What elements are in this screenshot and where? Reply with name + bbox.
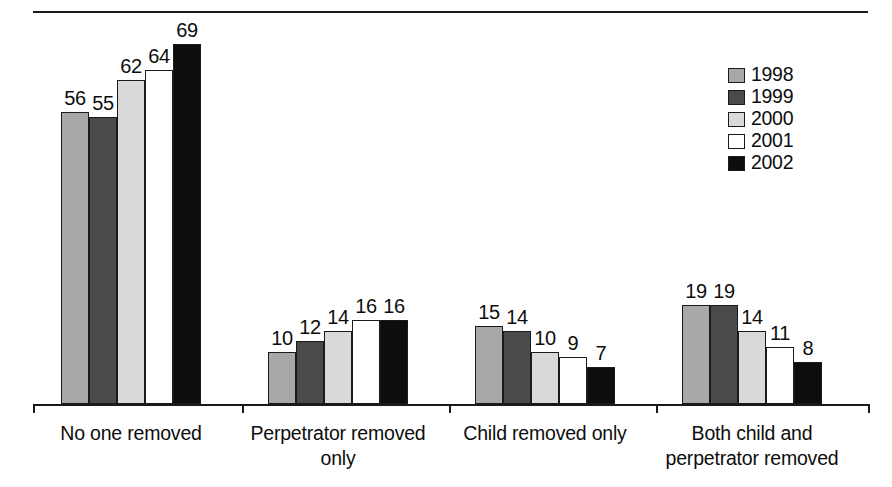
legend-item-2002[interactable]: 2002	[728, 152, 793, 174]
bar-value-label: 19	[702, 280, 746, 303]
bar	[145, 70, 173, 404]
legend-swatch	[728, 156, 745, 171]
axis-tick	[656, 404, 658, 413]
bar	[352, 320, 380, 404]
axis-tick	[242, 404, 244, 413]
legend-label: 1999	[751, 87, 793, 107]
legend-label: 1998	[751, 65, 793, 85]
legend-item-1999[interactable]: 1999	[728, 86, 793, 108]
bar-value-label: 64	[137, 45, 181, 68]
bar	[794, 362, 822, 404]
bar-value-label: 7	[579, 342, 623, 365]
bar	[682, 305, 710, 404]
category-label: Perpetrator removed only	[223, 421, 453, 471]
legend-swatch	[728, 112, 745, 127]
bar	[117, 80, 145, 404]
bar-value-label: 8	[786, 337, 830, 360]
bar	[531, 352, 559, 404]
axis-tick	[868, 404, 870, 413]
legend-swatch	[728, 90, 745, 105]
bar	[89, 117, 117, 404]
axis-tick	[33, 404, 35, 413]
category-label: No one removed	[16, 421, 246, 446]
bar	[296, 341, 324, 404]
bar-value-label: 14	[495, 306, 539, 329]
category-label: Child removed only	[430, 421, 660, 446]
axis-tick	[449, 404, 451, 413]
bar	[380, 320, 408, 404]
legend-item-2001[interactable]: 2001	[728, 130, 793, 152]
legend-swatch	[728, 134, 745, 149]
bar-chart-figure: 5655626469101214161615141097191914118 No…	[0, 0, 892, 487]
bar	[324, 331, 352, 404]
legend-label: 2002	[751, 153, 793, 173]
bar	[268, 352, 296, 404]
legend-label: 2001	[751, 131, 793, 151]
legend: 19981999200020012002	[728, 64, 793, 174]
legend-label: 2000	[751, 109, 793, 129]
category-label: Both child and perpetrator removed	[637, 421, 867, 471]
legend-item-2000[interactable]: 2000	[728, 108, 793, 130]
legend-item-1998[interactable]: 1998	[728, 64, 793, 86]
bar	[61, 112, 89, 404]
bar	[475, 326, 503, 404]
bar-value-label: 16	[372, 295, 416, 318]
legend-swatch	[728, 68, 745, 83]
bar	[587, 367, 615, 404]
bar	[173, 44, 201, 404]
bar-value-label: 55	[81, 92, 125, 115]
bar-value-label: 69	[165, 19, 209, 42]
